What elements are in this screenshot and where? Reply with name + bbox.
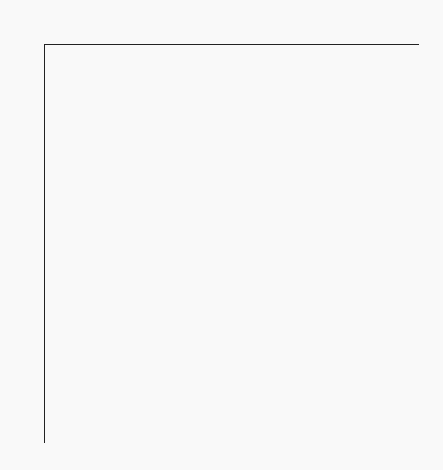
crossword-grid	[44, 44, 419, 443]
